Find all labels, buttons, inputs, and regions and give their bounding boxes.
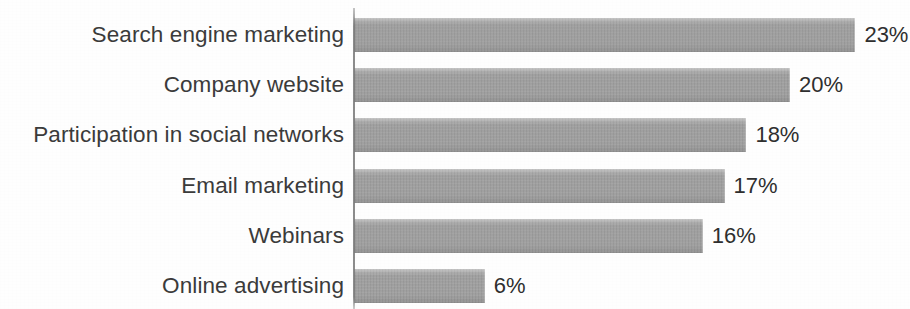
category-axis-line — [353, 8, 355, 309]
bar-value-label: 18% — [755, 118, 799, 152]
category-label: Webinars — [249, 219, 344, 253]
bar-row: Online advertising6% — [0, 269, 910, 303]
bar — [354, 68, 790, 102]
category-label: Search engine marketing — [92, 18, 344, 52]
bar-row: Search engine marketing23% — [0, 18, 910, 52]
bar-value-label: 6% — [494, 269, 526, 303]
horizontal-bar-chart: Search engine marketing23%Company websit… — [0, 0, 910, 309]
bar — [354, 118, 746, 152]
bar-row: Company website20% — [0, 68, 910, 102]
category-label: Email marketing — [181, 169, 344, 203]
bar-row: Webinars16% — [0, 219, 910, 253]
category-label: Participation in social networks — [33, 118, 344, 152]
category-label: Company website — [164, 68, 344, 102]
bar-row: Email marketing17% — [0, 169, 910, 203]
bar — [354, 269, 485, 303]
bar-value-label: 17% — [734, 169, 778, 203]
bar-row: Participation in social networks18% — [0, 118, 910, 152]
bar — [354, 169, 725, 203]
category-label: Online advertising — [162, 269, 344, 303]
bar-value-label: 20% — [799, 68, 843, 102]
bar — [354, 219, 703, 253]
bar-value-label: 23% — [864, 18, 908, 52]
bar-value-label: 16% — [712, 219, 756, 253]
bar — [354, 18, 855, 52]
